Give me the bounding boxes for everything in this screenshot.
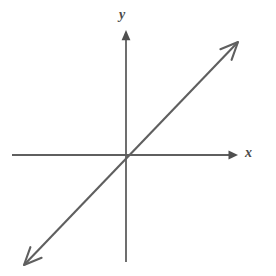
x-axis-arrowhead-icon	[229, 151, 239, 160]
y-axis-label: y	[119, 8, 125, 22]
coordinate-plane-svg	[0, 0, 276, 276]
coordinate-plane-figure: y x	[0, 0, 276, 276]
y-axis-arrowhead-icon	[122, 30, 131, 40]
x-axis-label: x	[245, 146, 252, 160]
line-y-equals-x	[24, 42, 238, 265]
